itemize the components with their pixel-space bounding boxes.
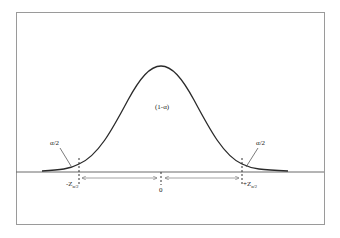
right-critical-z: +Z [243, 180, 251, 188]
frame [17, 13, 325, 225]
left-tail-label: α/2 [50, 139, 60, 147]
left-critical-z: -Z [66, 180, 73, 188]
right-tail-label: α/2 [256, 139, 266, 147]
normal-distribution-diagram: α/2 α/2 (1-α) -Zα/2 +Zα/2 0 [0, 0, 340, 238]
right-tail-pointer [246, 148, 258, 167]
bell-curve [42, 66, 288, 171]
center-area-label: (1-α) [155, 103, 170, 111]
left-tail-pointer [60, 148, 71, 166]
right-critical-sub: α/2 [251, 184, 257, 189]
right-critical-label: +Zα/2 [243, 180, 257, 189]
left-critical-sub: α/2 [73, 184, 79, 189]
left-critical-label: -Zα/2 [66, 180, 78, 189]
center-value-label: 0 [159, 186, 163, 194]
